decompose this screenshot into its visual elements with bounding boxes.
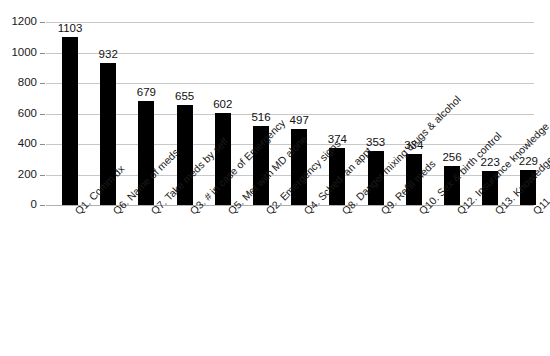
bar[interactable]	[62, 37, 78, 205]
y-axis-tick-label: 1200	[11, 16, 37, 28]
bar-value-label: 602	[213, 99, 232, 111]
bar-value-label: 679	[137, 87, 156, 99]
bar-value-label: 932	[99, 49, 118, 61]
gridline	[46, 22, 534, 23]
bar-value-label: 497	[290, 115, 309, 127]
y-axis-tick-label: 200	[18, 169, 37, 181]
y-axis-tick-mark	[40, 22, 45, 23]
gridline	[46, 83, 534, 84]
y-axis-tick-mark	[40, 114, 45, 115]
bar-chart: 020040060080010001200 110393267965560251…	[0, 0, 550, 356]
y-axis-tick-mark	[40, 53, 45, 54]
bar-value-label: 655	[175, 91, 194, 103]
bar-value-label: 1103	[58, 23, 83, 35]
y-axis-tick-mark	[40, 175, 45, 176]
bar-value-label: 516	[251, 112, 270, 124]
y-axis-tick-label: 600	[18, 108, 37, 120]
y-axis-tick-mark	[40, 205, 45, 206]
y-axis-tick-mark	[40, 83, 45, 84]
y-axis-tick-mark	[40, 144, 45, 145]
y-axis-tick-label: 800	[18, 77, 37, 89]
gridline	[46, 53, 534, 54]
y-axis-tick-label: 1000	[11, 47, 37, 59]
x-axis-category-labels: Q1. Comm dxQ6. Name of medsQ7. Take meds…	[46, 209, 534, 356]
y-axis-tick-label: 400	[18, 138, 37, 150]
y-axis-tick-label: 0	[31, 199, 37, 211]
bar-value-label: 256	[442, 152, 461, 164]
